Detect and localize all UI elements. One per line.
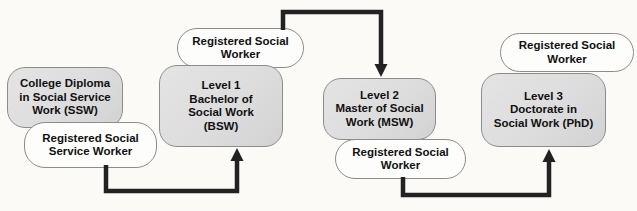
node-label: Level 3 Doctorate in Social Work (PhD) xyxy=(491,90,596,131)
node-label: Registered Social Worker xyxy=(516,39,619,66)
node-label: Level 1 Bachelor of Social Work (BSW) xyxy=(185,79,257,133)
node-level1-bsw: Level 1 Bachelor of Social Work (BSW) xyxy=(159,65,283,147)
node-level2-msw: Level 2 Master of Social Work (MSW) xyxy=(323,78,436,140)
node-label: Registered Social Worker xyxy=(189,35,292,62)
node-registered-social-worker-msw: Registered Social Worker xyxy=(335,139,466,179)
node-registered-social-service-worker: Registered Social Service Worker xyxy=(24,122,157,168)
node-level3-phd: Level 3 Doctorate in Social Work (PhD) xyxy=(481,73,606,147)
node-label: Registered Social Service Worker xyxy=(39,132,142,159)
flowchart-canvas: College Diploma in Social Service Work (… xyxy=(0,0,637,211)
node-college-diploma-ssw: College Diploma in Social Service Work (… xyxy=(7,67,123,128)
node-label: College Diploma in Social Service Work (… xyxy=(16,77,113,118)
node-registered-social-worker-phd: Registered Social Worker xyxy=(500,33,634,72)
node-registered-social-worker-bsw: Registered Social Worker xyxy=(177,28,304,68)
node-label: Registered Social Worker xyxy=(349,146,452,173)
node-label: Level 2 Master of Social Work (MSW) xyxy=(332,89,426,130)
